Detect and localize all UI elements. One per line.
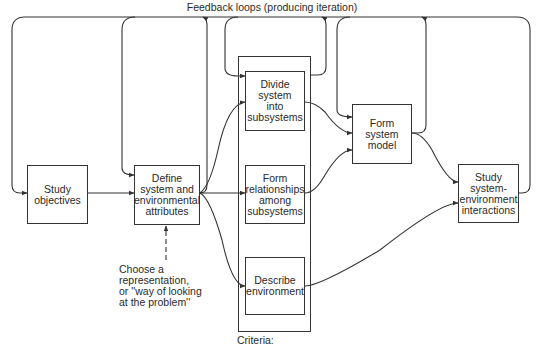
node-label: Form system model	[365, 118, 398, 151]
node-label: Define system and environmental attribut…	[134, 173, 200, 217]
node-label: Describe environment	[246, 275, 304, 297]
node-study-interactions: Study system- environment interactions	[458, 164, 519, 223]
feedback-loops-title: Feedback loops (producing iteration)	[0, 2, 544, 13]
choose-representation-note: Choose a representation, or ''way of loo…	[119, 264, 202, 308]
node-define-system: Define system and environmental attribut…	[134, 165, 200, 225]
node-label: Study objectives	[34, 184, 81, 206]
criteria-label: Criteria:	[237, 335, 274, 346]
node-label: Divide system into subsystems	[247, 79, 302, 123]
node-divide-system: Divide system into subsystems	[245, 71, 305, 131]
node-form-system-model: Form system model	[352, 104, 412, 164]
node-label: Study system- environment interactions	[460, 172, 518, 216]
node-describe-environment: Describe environment	[245, 257, 305, 315]
node-study-objectives: Study objectives	[27, 165, 88, 224]
node-label: Form relationships among subsystems	[246, 173, 305, 217]
node-form-relationships: Form relationships among subsystems	[245, 165, 305, 224]
